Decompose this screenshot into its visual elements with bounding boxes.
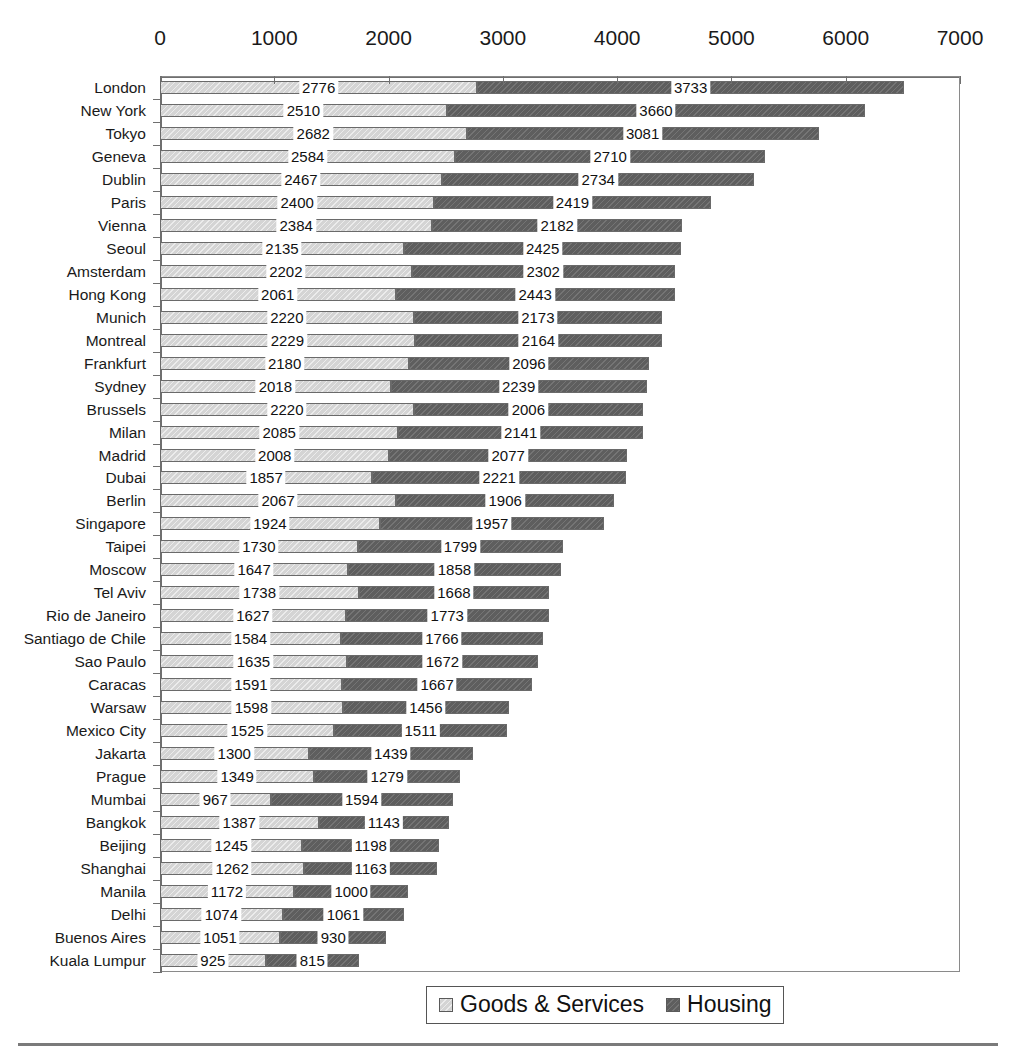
- data-label-goods-services: 1598: [232, 698, 271, 717]
- data-label-goods-services: 2067: [258, 491, 297, 510]
- data-label-goods-services: 1349: [217, 767, 256, 786]
- y-tick-mark: [153, 926, 161, 927]
- data-label-goods-services: 2584: [288, 147, 327, 166]
- data-label-goods-services: 1245: [211, 836, 250, 855]
- bar-track: 17301799: [160, 535, 960, 558]
- legend-swatch-goods: [439, 998, 453, 1012]
- bar-track: 27763733: [160, 76, 960, 99]
- bar-row: Mumbai9671594: [0, 788, 1016, 811]
- data-label-housing: 3081: [623, 124, 662, 143]
- data-label-housing: 3733: [671, 78, 710, 97]
- data-label-goods-services: 2682: [294, 124, 333, 143]
- y-tick-mark: [153, 673, 161, 674]
- bar-row: New York25103660: [0, 99, 1016, 122]
- bar-track: 22202173: [160, 306, 960, 329]
- y-tick-mark: [153, 512, 161, 513]
- bar-row: Seoul21352425: [0, 237, 1016, 260]
- y-tick-mark: [153, 466, 161, 467]
- data-label-goods-services: 1051: [200, 928, 239, 947]
- data-label-housing: 1511: [401, 721, 439, 740]
- bar-track: 925815: [160, 949, 960, 972]
- y-tick-mark: [153, 627, 161, 628]
- y-tick-mark: [153, 444, 161, 445]
- x-tick-label: 1000: [251, 26, 298, 50]
- category-label: Munich: [0, 306, 152, 329]
- data-label-housing: 2182: [537, 216, 576, 235]
- y-tick-mark: [153, 581, 161, 582]
- bar-track: 20082077: [160, 444, 960, 467]
- y-tick-mark: [153, 306, 161, 307]
- data-label-housing: 1061: [324, 905, 363, 924]
- bar-row: Munich22202173: [0, 306, 1016, 329]
- data-label-housing: 1279: [368, 767, 407, 786]
- data-label-housing: 2302: [524, 262, 563, 281]
- legend-label: Housing: [687, 991, 771, 1018]
- x-tick-mark: [617, 76, 618, 84]
- data-label-goods-services: 1627: [233, 606, 272, 625]
- category-label: New York: [0, 99, 152, 122]
- y-tick-mark: [153, 99, 161, 100]
- category-label: Dubai: [0, 466, 152, 489]
- category-label: Santiago de Chile: [0, 627, 152, 650]
- bar-track: 18572221: [160, 466, 960, 489]
- bar-track: 25842710: [160, 145, 960, 168]
- bar-track: 16471858: [160, 558, 960, 581]
- category-label: Montreal: [0, 329, 152, 352]
- bar-track: 16351672: [160, 650, 960, 673]
- data-label-housing: 1672: [423, 652, 462, 671]
- bar-row: Kuala Lumpur925815: [0, 949, 1016, 972]
- bar-track: 24672734: [160, 168, 960, 191]
- bar-row: Warsaw15981456: [0, 696, 1016, 719]
- bar-row: Madrid20082077: [0, 444, 1016, 467]
- bar-row: Santiago de Chile15841766: [0, 627, 1016, 650]
- data-label-housing: 2141: [501, 423, 540, 442]
- category-label: Madrid: [0, 444, 152, 467]
- data-label-housing: 2443: [515, 285, 554, 304]
- bar-row: Bangkok13871143: [0, 811, 1016, 834]
- data-label-goods-services: 1730: [239, 537, 278, 556]
- bar-row: Dubai18572221: [0, 466, 1016, 489]
- data-label-housing: 1799: [441, 537, 480, 556]
- data-label-housing: 2419: [553, 193, 592, 212]
- category-label: Caracas: [0, 673, 152, 696]
- bar-track: 13001439: [160, 742, 960, 765]
- data-label-housing: 1456: [406, 698, 445, 717]
- y-tick-mark: [153, 329, 161, 330]
- y-tick-mark: [153, 375, 161, 376]
- bar-row: Dublin24672734: [0, 168, 1016, 191]
- y-tick-mark: [153, 742, 161, 743]
- data-label-goods-services: 2202: [266, 262, 305, 281]
- value-axis: 01000200030004000500060007000: [0, 0, 1016, 76]
- x-tick-mark: [731, 76, 732, 84]
- data-label-housing: 1667: [417, 675, 456, 694]
- data-label-housing: 1439: [371, 744, 410, 763]
- data-label-housing: 2710: [590, 147, 629, 166]
- bar-track: 15981456: [160, 696, 960, 719]
- category-label: Frankfurt: [0, 352, 152, 375]
- bar-row: Amsterdam22022302: [0, 260, 1016, 283]
- bar-row: Sydney20182239: [0, 375, 1016, 398]
- bar-track: 13871143: [160, 811, 960, 834]
- data-label-goods-services: 1635: [234, 652, 273, 671]
- y-tick-mark: [153, 489, 161, 490]
- category-label: Jakarta: [0, 742, 152, 765]
- x-tick-mark: [389, 76, 390, 84]
- data-label-housing: 2096: [509, 354, 548, 373]
- x-tick-label: 5000: [708, 26, 755, 50]
- bar-track: 12451198: [160, 834, 960, 857]
- bar-row: Brussels22202006: [0, 398, 1016, 421]
- data-label-goods-services: 2776: [299, 78, 338, 97]
- bar-track: 12621163: [160, 857, 960, 880]
- y-tick-mark: [153, 788, 161, 789]
- data-label-goods-services: 2229: [268, 331, 307, 350]
- y-tick-mark: [153, 168, 161, 169]
- y-tick-mark: [153, 558, 161, 559]
- y-tick-mark: [153, 191, 161, 192]
- data-label-housing: 1668: [434, 583, 473, 602]
- y-tick-mark: [153, 145, 161, 146]
- data-label-housing: 2077: [488, 446, 527, 465]
- data-label-goods-services: 2008: [255, 446, 294, 465]
- y-tick-mark: [153, 834, 161, 835]
- category-label: Paris: [0, 191, 152, 214]
- category-label: Seoul: [0, 237, 152, 260]
